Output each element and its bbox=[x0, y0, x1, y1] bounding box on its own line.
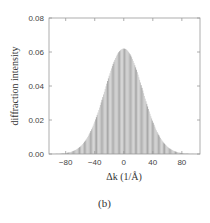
chart-bars bbox=[50, 49, 200, 154]
svg-text:0.06: 0.06 bbox=[28, 48, 44, 57]
svg-text:−40: −40 bbox=[88, 158, 102, 167]
svg-text:0.02: 0.02 bbox=[28, 116, 44, 125]
svg-text:0.08: 0.08 bbox=[28, 14, 44, 23]
svg-text:−80: −80 bbox=[59, 158, 73, 167]
diffraction-chart: 0.000.020.040.060.08 −80−4004080 diffrac… bbox=[0, 0, 210, 195]
svg-text:0.04: 0.04 bbox=[28, 82, 44, 91]
x-axis-label: Δk (1/Å) bbox=[106, 171, 142, 183]
svg-text:0.00: 0.00 bbox=[28, 150, 44, 159]
svg-text:80: 80 bbox=[177, 158, 186, 167]
y-axis-label: diffraction intensity bbox=[9, 47, 20, 126]
svg-text:40: 40 bbox=[148, 158, 157, 167]
svg-text:0: 0 bbox=[122, 158, 127, 167]
figure-caption: (b) bbox=[98, 197, 111, 209]
